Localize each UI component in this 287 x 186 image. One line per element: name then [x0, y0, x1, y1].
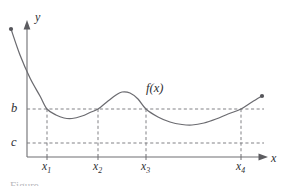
figure-caption-text: Figure	[10, 180, 39, 186]
tick-label-x1: x1	[42, 161, 51, 173]
tick-label-x4: x4	[236, 161, 245, 173]
tick-label-x1-subscript: 1	[47, 166, 51, 175]
level-b-label: b	[11, 102, 17, 115]
figure-container: y x b c f(x) x1 x2 x3 x4 Figure	[0, 0, 287, 186]
x-axis-arrowhead	[259, 154, 269, 161]
function-graph-svg	[0, 0, 287, 186]
tick-label-x3-subscript: 3	[146, 166, 150, 175]
tick-label-x2: x2	[93, 161, 102, 173]
function-curve-label: f(x)	[146, 82, 163, 95]
x-axis-label: x	[271, 152, 276, 164]
y-axis-label: y	[35, 11, 40, 23]
tick-label-x2-subscript: 2	[98, 166, 102, 175]
curve-left-endpoint-dot	[9, 27, 13, 31]
tick-label-x4-subscript: 4	[241, 166, 245, 175]
curve-right-endpoint-dot	[260, 94, 264, 98]
level-c-label: c	[11, 136, 17, 149]
function-curve	[11, 29, 262, 125]
y-axis-arrowhead	[24, 20, 31, 30]
tick-label-x3: x3	[141, 161, 150, 173]
figure-caption-strip: Figure	[0, 180, 287, 186]
